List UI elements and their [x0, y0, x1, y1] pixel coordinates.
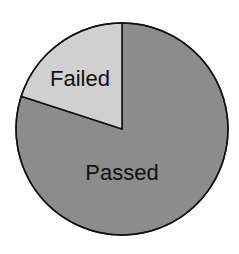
pie-chart: Failed Passed — [0, 0, 239, 254]
label-passed: Passed — [85, 160, 158, 185]
label-failed: Failed — [50, 66, 110, 91]
